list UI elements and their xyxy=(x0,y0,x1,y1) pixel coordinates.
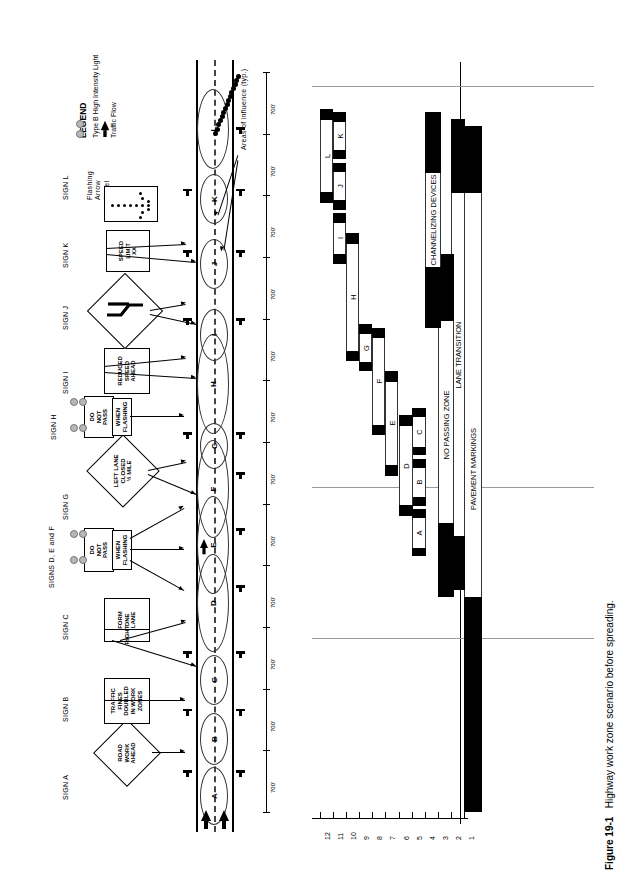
area-of-influence-label: A xyxy=(210,793,219,799)
sign-g-text: LEFT LANECLOSED½ MILE xyxy=(113,455,133,488)
channelizing-device-15 xyxy=(183,250,192,257)
sign-def-leader-3-head xyxy=(178,586,184,592)
channelizing-device-11 xyxy=(183,432,192,439)
sign-i-text: REDUCEDSPEEDAHEAD xyxy=(117,356,137,386)
sign-a: ROADWORKAHEAD xyxy=(93,719,161,787)
gantt-bar-e: E xyxy=(385,371,398,475)
gantt-bar-cap-start xyxy=(438,523,454,597)
sign-label-a: SIGN A xyxy=(62,775,69,800)
sign-g-leader-2 xyxy=(148,474,196,495)
dimension-tick-8 xyxy=(263,319,270,320)
axis-tick-9 xyxy=(359,812,360,818)
dimension-tick-2 xyxy=(263,689,270,690)
dimension-label-5: 700' xyxy=(270,535,276,546)
area-of-influence-label: K xyxy=(210,197,219,203)
area-of-influence-label: I xyxy=(210,334,219,336)
sign-def-bulb-3 xyxy=(70,556,78,564)
axis-tick-6 xyxy=(399,812,400,818)
sign-k-leader-2-head xyxy=(191,259,196,263)
dimension-label-1: 700' xyxy=(270,782,276,793)
areas-of-influence-annotation: Areas of influence (typ.) xyxy=(240,69,247,150)
legend-light-icon-2 xyxy=(76,130,84,138)
area-of-influence-label: J xyxy=(210,262,219,266)
dimension-label-7: 700' xyxy=(270,412,276,423)
sign-label-i: SIGN I xyxy=(62,371,69,394)
dimension-tick-10 xyxy=(263,195,270,196)
area-of-influence-label: H xyxy=(209,382,218,388)
traffic-flow-arrow-2 xyxy=(219,810,229,821)
dimension-tick-6 xyxy=(263,442,270,443)
sign-label-g: SIGN G xyxy=(62,494,69,520)
channelizing-device-9 xyxy=(236,472,245,479)
gantt-bar-cap-start xyxy=(412,497,426,506)
sign-i-leader-1-head xyxy=(181,355,186,359)
sign-label-h: SIGN H xyxy=(50,414,57,440)
gantt-bar-label: E xyxy=(387,421,396,426)
dimension-label-9: 700' xyxy=(270,289,276,300)
arrow-panel-dot-8 xyxy=(141,211,144,214)
axis-tick-2 xyxy=(451,812,452,818)
channelizing-device-12 xyxy=(236,318,245,325)
channelizing-device-5 xyxy=(236,651,245,658)
axis-tick-11 xyxy=(333,812,334,818)
gantt-bar-label: I xyxy=(335,237,344,239)
gantt-bar-g: G xyxy=(359,324,372,371)
sign-h-bulb-4 xyxy=(79,424,87,432)
area-of-influence-label: E xyxy=(209,542,218,547)
gridline-3 xyxy=(312,638,594,639)
sign-h-flashing: WHENFLASHING xyxy=(112,398,132,436)
dimension-tick-7 xyxy=(263,380,270,381)
channelizing-device-6 xyxy=(183,651,192,658)
sign-b-leader xyxy=(104,700,185,701)
figure-caption-text: Highway work zone scenario before spread… xyxy=(604,600,615,808)
gantt-bar-cap-start xyxy=(333,254,346,263)
dimension-tick-1 xyxy=(263,750,270,751)
gantt-bar-label: CHANNELIZING DEVICES xyxy=(428,175,437,266)
axis-tick-4 xyxy=(425,812,426,818)
aoi-leader-2-head xyxy=(219,247,224,253)
gantt-bar-label: J xyxy=(335,184,344,188)
dimension-tick-0 xyxy=(263,812,270,813)
axis-label-4: 4 xyxy=(429,836,436,840)
dimension-label-3: 700' xyxy=(270,659,276,670)
axis-baseline xyxy=(312,818,468,819)
gantt-bar-cap-start xyxy=(464,597,482,812)
gantt-bar-label: H xyxy=(348,295,357,300)
gantt-bar-channelizing-devices: CHANNELIZING DEVICES xyxy=(425,112,441,327)
arrow-panel-dot-5 xyxy=(135,204,138,207)
sign-h-leader-head xyxy=(179,413,184,417)
sign-label-def: SIGNS D, E and F xyxy=(48,526,55,588)
gantt-bar-label: C xyxy=(414,429,423,434)
sign-b-leader-head xyxy=(180,697,185,701)
dimension-label-8: 700' xyxy=(270,350,276,361)
sign-label-j: SIGN J xyxy=(62,306,69,330)
channelizing-device-16 xyxy=(236,189,245,196)
area-of-influence-label: C xyxy=(210,678,219,684)
axis-label-10: 10 xyxy=(350,832,357,840)
sign-label-l: SIGN L xyxy=(62,175,69,200)
sign-k-leader-1-head xyxy=(181,241,186,245)
gantt-bar-cap-start xyxy=(346,351,359,362)
axis-tick-8 xyxy=(372,812,373,818)
channelizing-device-7 xyxy=(236,585,245,592)
gantt-bar-label: L xyxy=(322,154,331,158)
taper-device-5 xyxy=(220,114,225,119)
sign-k-text: SPEEDLIMITXX xyxy=(118,241,138,261)
gantt-bar-cap-start xyxy=(412,447,426,456)
axis-tick-7 xyxy=(385,812,386,818)
gantt-bar-pavement-markings: PAVEMENT MARKINGS xyxy=(464,126,482,812)
dimension-label-12: 700' xyxy=(270,104,276,115)
dimension-tick-9 xyxy=(263,257,270,258)
sign-def-leader-2-head xyxy=(179,546,184,550)
dimension-tick-11 xyxy=(263,134,270,135)
axis-label-6: 6 xyxy=(403,836,410,840)
sign-h-primary-text: DONOTPASS xyxy=(89,409,109,425)
gantt-bar-cap-end xyxy=(385,371,398,382)
arrow-panel-dot-9 xyxy=(147,200,150,203)
gantt-bar-j: J xyxy=(333,163,346,210)
axis-label-2: 2 xyxy=(455,836,462,840)
gantt-bar-l: L xyxy=(320,109,333,203)
axis-tick-5 xyxy=(412,812,413,818)
axis-label-1: 1 xyxy=(468,836,475,840)
sign-h-bulb-1 xyxy=(70,398,78,406)
